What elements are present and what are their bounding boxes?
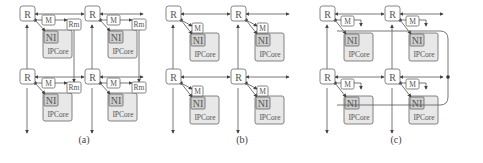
- ipcore-label: IPCore: [194, 50, 216, 59]
- monitor-label: M: [344, 80, 351, 89]
- link-line: [246, 20, 257, 34]
- ni-label: NI: [412, 98, 423, 109]
- monitor-label: M: [259, 24, 266, 33]
- monitor-feedback-line: [419, 83, 426, 89]
- ni-label: NI: [193, 98, 204, 109]
- link-line: [181, 20, 192, 34]
- router-label: R: [235, 9, 242, 20]
- monitor-label: M: [110, 16, 117, 25]
- ni-label: NI: [46, 95, 57, 106]
- ni-label: NI: [347, 35, 358, 46]
- router-label: R: [235, 72, 242, 83]
- link-line: [246, 20, 257, 26]
- monitor-label: M: [194, 87, 201, 96]
- monitor-feedback-line: [354, 20, 361, 26]
- ipcore-label: IPCore: [47, 47, 69, 56]
- noc-monitoring-diagram: NIIPCoreMRmRNIIPCoreMRmRNIIPCoreMRmRNIIP…: [0, 0, 483, 163]
- router-label: R: [324, 9, 331, 20]
- router-label: R: [24, 9, 31, 20]
- ni-label: NI: [258, 35, 269, 46]
- link-line: [181, 83, 192, 97]
- router-label: R: [89, 72, 96, 83]
- ipcore-label: IPCore: [348, 50, 370, 59]
- caption-a: (a): [78, 134, 89, 146]
- ni-label: NI: [258, 98, 269, 109]
- caption-b: (b): [236, 134, 248, 146]
- junction-dot: [446, 75, 450, 79]
- monitor-label: M: [409, 80, 416, 89]
- router-label: R: [24, 72, 31, 83]
- remote-monitor-label: Rm: [134, 20, 145, 29]
- ni-label: NI: [46, 32, 57, 43]
- ipcore-label: IPCore: [259, 50, 281, 59]
- ni-label: NI: [412, 35, 423, 46]
- monitor-feedback-line: [419, 20, 426, 26]
- ipcore-label: IPCore: [47, 110, 69, 119]
- link-line: [181, 20, 192, 26]
- link-line: [246, 83, 257, 97]
- ipcore-label: IPCore: [348, 113, 370, 122]
- monitor-feedback-line: [354, 83, 361, 89]
- monitor-label: M: [45, 16, 52, 25]
- monitor-label: M: [344, 17, 351, 26]
- ipcore-label: IPCore: [259, 113, 281, 122]
- ni-label: NI: [347, 98, 358, 109]
- monitor-label: M: [259, 87, 266, 96]
- router-label: R: [170, 72, 177, 83]
- ipcore-label: IPCore: [413, 113, 435, 122]
- ipcore-label: IPCore: [112, 110, 134, 119]
- router-label: R: [89, 9, 96, 20]
- router-label: R: [389, 72, 396, 83]
- ipcore-label: IPCore: [413, 50, 435, 59]
- router-label: R: [389, 9, 396, 20]
- remote-monitor-label: Rm: [69, 20, 80, 29]
- monitor-label: M: [45, 79, 52, 88]
- ipcore-label: IPCore: [112, 47, 134, 56]
- monitor-label: M: [409, 17, 416, 26]
- router-label: R: [324, 72, 331, 83]
- link-line: [181, 83, 192, 89]
- monitor-label: M: [194, 24, 201, 33]
- ni-label: NI: [111, 32, 122, 43]
- remote-monitor-label: Rm: [134, 83, 145, 92]
- router-label: R: [170, 9, 177, 20]
- caption-c: (c): [390, 134, 401, 146]
- ipcore-label: IPCore: [194, 113, 216, 122]
- ni-label: NI: [193, 35, 204, 46]
- remote-monitor-label: Rm: [69, 83, 80, 92]
- link-line: [246, 83, 257, 89]
- ni-label: NI: [111, 95, 122, 106]
- monitor-label: M: [110, 79, 117, 88]
